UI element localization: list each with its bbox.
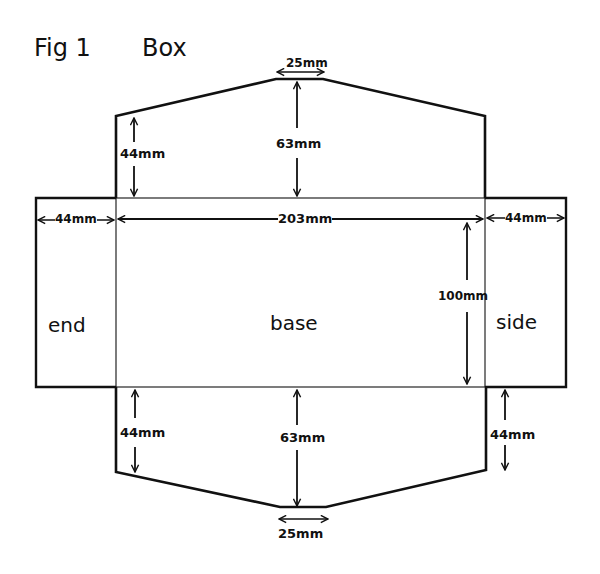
- dim-base-width: 100mm: [438, 290, 488, 302]
- panel-label-end: end: [48, 313, 86, 337]
- box-net-diagram: [0, 0, 600, 574]
- end-panel-outline: [36, 198, 116, 387]
- dim-top-tip-width: 25mm: [286, 57, 328, 69]
- bottom-flap-outline: [116, 387, 486, 507]
- dim-end-width: 44mm: [55, 213, 97, 225]
- panel-label-base: base: [270, 311, 318, 335]
- dim-top-edge-height: 44mm: [120, 147, 165, 160]
- dim-bottom-left-edge-height: 44mm: [120, 426, 165, 439]
- side-panel-outline: [485, 198, 566, 387]
- dim-base-length: 203mm: [278, 212, 332, 225]
- figure-label: Fig 1: [34, 34, 91, 62]
- dim-bottom-flap-height: 63mm: [280, 431, 325, 444]
- base-panel-outline: [116, 198, 485, 387]
- dim-side-width: 44mm: [505, 212, 547, 224]
- figure-title: Box: [142, 34, 187, 62]
- panel-label-side: side: [496, 310, 537, 334]
- dim-bottom-tip-width: 25mm: [278, 527, 323, 540]
- dim-top-flap-height: 63mm: [276, 137, 321, 150]
- dim-bottom-right-edge-height: 44mm: [490, 428, 535, 441]
